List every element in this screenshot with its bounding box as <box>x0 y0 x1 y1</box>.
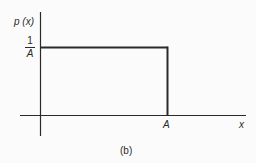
y-axis-label: p (x) <box>14 17 34 27</box>
figure-caption: (b) <box>120 146 132 156</box>
y-tick-numerator: 1 <box>25 36 35 46</box>
y-tick-denominator: A <box>25 49 35 59</box>
chart-canvas <box>0 0 256 163</box>
y-tick-fraction: 1 A <box>25 36 35 59</box>
x-axis-label: x <box>239 120 244 130</box>
x-tick-label: A <box>163 120 170 130</box>
